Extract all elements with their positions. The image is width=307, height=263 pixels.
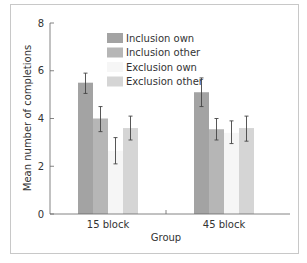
legend-swatch (107, 48, 123, 58)
grouped-bar-chart: 02468 15 block45 block Group Mean number… (0, 0, 307, 263)
x-tick-label: 45 block (203, 219, 246, 230)
bar (194, 92, 209, 214)
legend-swatch (107, 77, 123, 87)
y-tick-label: 6 (38, 65, 44, 76)
y-tick-label: 0 (38, 209, 44, 220)
bars-group (78, 83, 254, 214)
x-axis-tick-labels: 15 block45 block (87, 219, 246, 230)
x-axis-title: Group (151, 232, 181, 243)
y-axis-title: Mean number of completions (22, 45, 33, 191)
legend-swatch (107, 33, 123, 43)
bar (123, 128, 138, 214)
bar (78, 83, 93, 214)
legend-label: Exclusion other (126, 76, 204, 87)
legend-label: Exclusion own (126, 62, 197, 73)
legend: Inclusion ownInclusion otherExclusion ow… (107, 33, 204, 88)
y-tick-label: 8 (38, 18, 44, 29)
y-tick-label: 2 (38, 161, 44, 172)
x-tick-label: 15 block (87, 219, 130, 230)
y-axis-ticks: 02468 (38, 18, 54, 220)
y-tick-label: 4 (38, 113, 44, 124)
bar (224, 133, 239, 214)
bar (209, 129, 224, 214)
legend-label: Inclusion other (126, 47, 201, 58)
bar (93, 119, 108, 215)
legend-label: Inclusion own (126, 33, 194, 44)
legend-swatch (107, 62, 123, 72)
